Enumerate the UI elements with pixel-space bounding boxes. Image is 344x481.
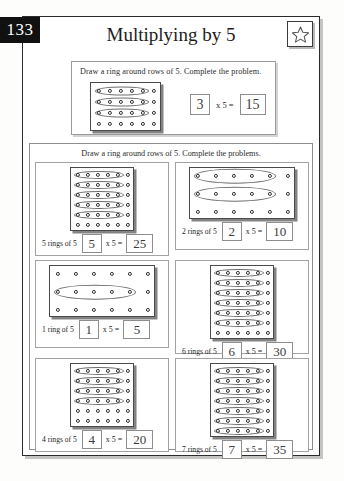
answer-row: 1 ring of 51x 5 =5	[40, 320, 164, 339]
grid-dot	[152, 89, 156, 93]
grid-dot	[214, 210, 218, 214]
grid-dot	[92, 272, 96, 276]
grid-dot	[130, 122, 134, 126]
grid-dot	[86, 223, 90, 227]
star-badge[interactable]	[287, 21, 313, 47]
problem-card: 1 ring of 51x 5 =5	[35, 260, 169, 348]
grid-dot	[226, 331, 230, 335]
grid-dot	[250, 210, 254, 214]
example-factor-box[interactable]: 3	[190, 94, 210, 115]
grid-dot	[286, 192, 290, 196]
problem-card: 5 rings of 55x 5 =25	[35, 162, 169, 256]
grid-dot	[266, 389, 270, 393]
problem-grid-wrap	[40, 265, 164, 317]
worksheet-header: Multiplying by 5	[23, 17, 319, 59]
example-equation: 3 x 5 = 15	[190, 94, 266, 115]
grid-dot	[266, 311, 270, 315]
grid-dot	[110, 272, 114, 276]
grid-dot	[256, 331, 260, 335]
grid-dot	[56, 272, 60, 276]
grid-dot	[86, 419, 90, 423]
grid-dot	[266, 301, 270, 305]
grid-dot	[266, 429, 270, 433]
rings-label: 6 rings of 5	[182, 347, 217, 356]
grid-dot	[74, 308, 78, 312]
dot-grid	[49, 265, 155, 317]
grid-dot	[266, 409, 270, 413]
product-box[interactable]: 5	[123, 320, 150, 339]
rings-label: 2 rings of 5	[182, 227, 217, 236]
grid-dot	[126, 183, 130, 187]
grid-dot	[116, 223, 120, 227]
factor-box[interactable]: 1	[79, 320, 99, 339]
example-instruction: Draw a ring around rows of 5. Complete t…	[80, 67, 261, 76]
operator-text: x 5 =	[246, 445, 263, 454]
grid-dot	[126, 409, 130, 413]
grid-dot	[126, 223, 130, 227]
grid-dot	[126, 419, 130, 423]
problems-list: 5 rings of 55x 5 =252 rings of 52x 5 =10…	[35, 162, 309, 452]
grid-dot	[76, 223, 80, 227]
grid-dot	[76, 419, 80, 423]
grid-dot	[146, 290, 150, 294]
product-box[interactable]: 20	[126, 430, 153, 449]
answer-row: 7 rings of 57x 5 =35	[180, 440, 304, 459]
dot-grid	[70, 363, 134, 427]
grid-dot	[126, 213, 130, 217]
example-operator: x 5 =	[216, 100, 234, 110]
dot-grid	[210, 265, 274, 339]
factor-box[interactable]: 7	[222, 440, 242, 459]
example-product-box[interactable]: 15	[240, 94, 266, 115]
problem-card: 2 rings of 52x 5 =10	[175, 162, 309, 250]
grid-dot	[266, 369, 270, 373]
grid-dot	[116, 409, 120, 413]
grid-dot	[266, 281, 270, 285]
grid-dot	[268, 210, 272, 214]
grid-dot	[266, 291, 270, 295]
grid-dot	[126, 379, 130, 383]
rings-label: 5 rings of 5	[42, 239, 77, 248]
grid-dot	[106, 419, 110, 423]
problem-grid-wrap	[40, 363, 164, 427]
grid-dot	[74, 272, 78, 276]
grid-dot	[266, 331, 270, 335]
example-panel: Draw a ring around rows of 5. Complete t…	[71, 61, 276, 135]
grid-dot	[128, 272, 132, 276]
grid-dot	[286, 210, 290, 214]
dot-grid	[189, 167, 295, 219]
grid-dot	[108, 122, 112, 126]
factor-box[interactable]: 2	[222, 222, 242, 241]
grid-dot	[246, 331, 250, 335]
factor-box[interactable]: 4	[82, 430, 102, 449]
worksheet-sheet: Multiplying by 5 Draw a ring around rows…	[22, 16, 320, 456]
problem-card: 6 rings of 56x 5 =30	[175, 260, 309, 354]
dot-grid	[70, 167, 134, 231]
grid-dot	[266, 419, 270, 423]
problem-grid-wrap	[180, 363, 304, 437]
grid-dot	[266, 399, 270, 403]
grid-dot	[126, 193, 130, 197]
grid-dot	[146, 308, 150, 312]
grid-dot	[152, 111, 156, 115]
grid-dot	[266, 271, 270, 275]
problem-grid-wrap	[40, 167, 164, 231]
operator-text: x 5 =	[246, 347, 263, 356]
answer-row: 4 rings of 54x 5 =20	[40, 430, 164, 449]
product-box[interactable]: 25	[126, 234, 153, 253]
star-icon	[291, 25, 310, 44]
rings-label: 7 rings of 5	[182, 445, 217, 454]
grid-dot	[96, 409, 100, 413]
grid-dot	[152, 100, 156, 104]
grid-dot	[97, 122, 101, 126]
grid-dot	[126, 203, 130, 207]
grid-dot	[126, 399, 130, 403]
grid-dot	[106, 409, 110, 413]
grid-dot	[266, 379, 270, 383]
product-box[interactable]: 35	[266, 440, 293, 459]
product-box[interactable]: 10	[266, 222, 293, 241]
factor-box[interactable]: 5	[82, 234, 102, 253]
grid-dot	[116, 419, 120, 423]
rings-label: 1 ring of 5	[42, 325, 74, 334]
grid-dot	[236, 331, 240, 335]
operator-text: x 5 =	[246, 227, 263, 236]
